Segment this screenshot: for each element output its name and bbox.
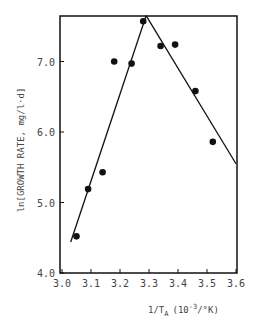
- x-axis-label-sub: A: [164, 310, 169, 318]
- x-tick-label: 3.3: [140, 278, 158, 289]
- data-point: [73, 233, 80, 240]
- y-tick-label: 7.0: [37, 57, 55, 68]
- x-tick-label: 3.1: [82, 278, 100, 289]
- data-point: [99, 169, 106, 176]
- x-tick-label: 3.6: [227, 278, 245, 289]
- x-tick-label: 3.2: [111, 278, 129, 289]
- fit-falling-line: [146, 16, 236, 164]
- x-axis-label-unit-suffix: /°K): [197, 305, 219, 315]
- x-axis-label: 1/TA(10-3/°K): [148, 303, 219, 318]
- x-axis-label-main: 1/T: [148, 305, 165, 315]
- x-axis-ticks: 3.03.13.23.33.43.53.6: [53, 269, 245, 289]
- data-point: [192, 88, 199, 95]
- x-axis-label-unit-prefix: (10: [172, 305, 188, 315]
- chart: 4.05.06.07.0 3.03.13.23.33.43.53.6 ln[GR…: [0, 0, 255, 336]
- x-axis-label-unit-exp: -3: [189, 303, 197, 311]
- y-axis-label: ln[GROWTH RATE, mg/l·d]: [16, 88, 26, 213]
- fit-lines: [71, 16, 236, 242]
- data-point: [210, 139, 217, 146]
- data-points: [73, 18, 216, 240]
- data-point: [128, 60, 135, 67]
- fit-rising-line: [71, 16, 146, 242]
- data-point: [157, 43, 164, 50]
- x-tick-label: 3.0: [53, 278, 71, 289]
- data-point: [85, 186, 92, 193]
- x-tick-label: 3.5: [198, 278, 216, 289]
- data-point: [140, 18, 147, 25]
- data-point: [111, 58, 118, 65]
- y-tick-label: 5.0: [37, 198, 55, 209]
- plot-frame: [60, 16, 237, 273]
- y-tick-label: 6.0: [37, 127, 55, 138]
- data-point: [172, 41, 179, 48]
- x-tick-label: 3.4: [169, 278, 187, 289]
